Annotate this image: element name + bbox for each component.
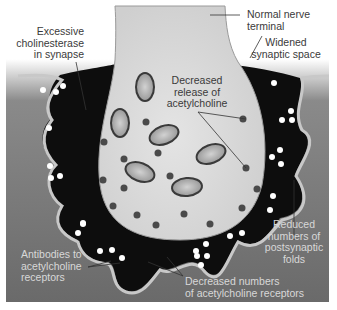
label-excessive-cholinesterase: Excessive cholinesterase in synapse [6,26,84,61]
label-decreased-receptors: Decreased numbers of acetylcholine recep… [185,276,304,299]
label-antibodies: Antibodies to acetylcholine receptors [21,249,82,284]
label-decreased-release: Decreased release of acetylcholine [160,75,234,110]
label-normal-nerve-terminal: Normal nerve terminal [247,9,310,32]
label-reduced-postsynaptic-folds: Reduced numbers of postsynaptic folds [258,219,330,265]
label-widened-synaptic-space: Widened synaptic space [244,37,328,60]
nmj-diagram: Normal nerve terminal Excessive cholines… [0,0,337,310]
